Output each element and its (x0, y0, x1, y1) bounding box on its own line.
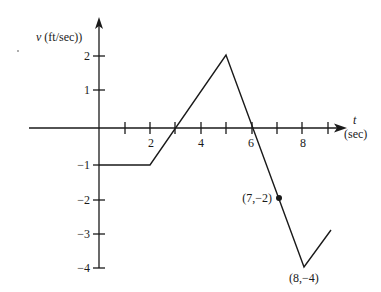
y-tick-2: 2 (84, 49, 90, 63)
annotation-7-neg2: (7,−2) (242, 191, 272, 205)
x-axis (29, 122, 340, 134)
stray-mark (17, 50, 19, 52)
y-tick-neg2: −2 (77, 193, 90, 207)
velocity-line (99, 55, 331, 267)
x-axis-var-label: t (353, 113, 357, 127)
y-axis-label: v (ft/sec)) (36, 30, 82, 44)
y-tick-neg1: −1 (77, 158, 90, 172)
y-tick-1: 1 (84, 83, 90, 97)
x-tick-8: 8 (300, 136, 306, 150)
y-tick-neg4: −4 (77, 261, 90, 275)
x-axis-unit-label: (sec) (344, 127, 367, 141)
y-axis (93, 24, 105, 268)
x-tick-6: 6 (248, 136, 254, 150)
velocity-chart: 2 1 −1 −2 −3 −4 2 4 6 8 v (ft/sec)) t (s… (0, 0, 381, 292)
annotation-8-neg4: (8,−4) (289, 271, 319, 285)
point-marker (276, 195, 282, 201)
x-tick-2: 2 (148, 136, 154, 150)
y-tick-neg3: −3 (77, 227, 90, 241)
x-tick-4: 4 (198, 136, 204, 150)
